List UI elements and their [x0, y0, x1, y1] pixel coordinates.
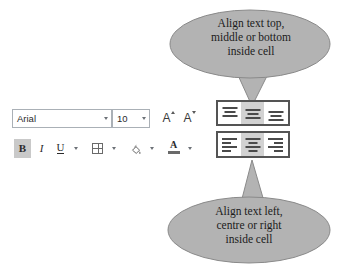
align-middle-icon-line: [245, 117, 260, 119]
vertical-alignment-group: [216, 100, 290, 126]
align-center-button[interactable]: [241, 133, 264, 156]
font-size-combobox[interactable]: 10: [112, 109, 150, 128]
font-size-value: 10: [117, 109, 128, 128]
chevron-down-icon[interactable]: [142, 117, 146, 120]
fill-color-button[interactable]: [126, 139, 145, 158]
font-color-button[interactable]: A: [164, 139, 183, 158]
align-right-icon-line: [274, 150, 283, 152]
spacer: [81, 148, 86, 149]
toolbar-row-style: B I U: [12, 135, 195, 161]
italic-icon: I: [40, 142, 44, 154]
chevron-down-icon: [150, 147, 154, 150]
fill-color-icon: [130, 142, 142, 154]
spacer: [157, 148, 162, 149]
chevron-down-icon[interactable]: [104, 117, 108, 120]
callout-line: centre or right: [169, 218, 329, 232]
align-right-icon-line: [268, 146, 283, 148]
callout-line: inside cell: [169, 232, 329, 246]
font-color-letter: A: [170, 140, 177, 150]
align-left-icon-line: [222, 142, 231, 144]
align-bottom-icon-line: [268, 119, 283, 121]
arrow-down-icon: [192, 111, 196, 114]
chevron-down-icon: [188, 147, 192, 150]
align-center-icon-line: [248, 142, 257, 144]
align-center-icon-line: [248, 150, 257, 152]
align-left-icon-line: [222, 150, 231, 152]
font-color-dropdown-button[interactable]: [185, 139, 195, 158]
align-center-icon-line: [245, 146, 260, 148]
font-name-value: Arial: [17, 109, 36, 128]
callout-line: Align text left,: [169, 204, 329, 218]
align-bottom-icon-line: [268, 111, 283, 113]
borders-dropdown-button[interactable]: [109, 139, 119, 158]
arrow-up-icon: [171, 111, 175, 114]
font-color-icon: A: [168, 141, 180, 155]
align-left-icon-line: [222, 146, 237, 148]
align-right-icon-line: [274, 142, 283, 144]
borders-icon: [92, 143, 103, 154]
fill-color-dropdown-button[interactable]: [147, 139, 157, 158]
font-name-combobox[interactable]: Arial: [12, 109, 112, 128]
bold-icon: B: [19, 142, 26, 154]
borders-button[interactable]: [88, 139, 107, 158]
chevron-down-icon: [74, 147, 78, 150]
align-left-button[interactable]: [218, 133, 241, 156]
increase-font-size-icon: A: [162, 112, 170, 124]
bold-button[interactable]: B: [14, 139, 31, 158]
align-top-icon-line: [222, 115, 237, 117]
callout-line: Align text top,: [171, 16, 331, 30]
callout-line: middle or bottom: [171, 30, 331, 44]
toolbar-row-font: Arial 10 A A: [12, 105, 197, 131]
callout-line: inside cell: [171, 44, 331, 58]
decrease-font-size-icon: A: [183, 112, 191, 124]
italic-button[interactable]: I: [33, 139, 50, 158]
increase-font-size-button[interactable]: A: [157, 109, 176, 128]
align-top-button[interactable]: [218, 102, 241, 124]
align-top-icon-line: [222, 107, 237, 109]
horizontal-alignment-group: [216, 131, 290, 158]
align-center-icon-line: [245, 138, 260, 140]
align-middle-button[interactable]: [241, 102, 264, 124]
align-bottom-button[interactable]: [264, 102, 287, 124]
align-middle-icon-line: [245, 109, 260, 111]
decrease-font-size-button[interactable]: A: [178, 109, 197, 128]
font-color-swatch: [168, 151, 180, 154]
align-middle-icon-line: [247, 113, 258, 115]
align-bottom-icon-line: [270, 115, 281, 117]
horizontal-alignment-callout-text: Align text left, centre or right inside …: [169, 204, 329, 246]
vertical-alignment-callout-text: Align text top, middle or bottom inside …: [171, 16, 331, 58]
underline-button[interactable]: U: [52, 139, 69, 158]
underline-icon: U: [57, 142, 65, 154]
spacer: [150, 118, 155, 119]
align-right-button[interactable]: [264, 133, 287, 156]
underline-dropdown-button[interactable]: [71, 139, 81, 158]
align-right-icon-line: [268, 138, 283, 140]
chevron-down-icon: [112, 147, 116, 150]
align-left-icon-line: [222, 138, 237, 140]
spacer: [119, 148, 124, 149]
annotated-toolbar-figure: Align text top, middle or bottom inside …: [0, 0, 344, 274]
align-top-icon-line: [224, 111, 235, 113]
